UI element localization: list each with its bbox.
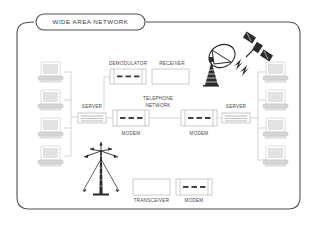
workstation-right-3[interactable] xyxy=(263,118,288,138)
server-left-label: SERVER xyxy=(82,104,103,109)
demodulator[interactable] xyxy=(110,69,146,84)
receiver[interactable] xyxy=(152,69,189,84)
modem-bottom[interactable] xyxy=(176,179,212,195)
satellite-signal-arrows xyxy=(234,59,249,76)
modem-right-label: MODEM xyxy=(190,131,209,136)
wan-diagram-canvas: WIDE AREA NETWORK xyxy=(0,0,317,225)
satellite-icon xyxy=(243,32,273,62)
workstation-left-3[interactable] xyxy=(38,118,63,138)
modem-left[interactable] xyxy=(113,110,149,126)
server-right[interactable] xyxy=(222,113,250,123)
workstation-right-4[interactable] xyxy=(263,146,288,166)
workstation-left-1[interactable] xyxy=(38,62,63,82)
server-left[interactable] xyxy=(78,113,106,123)
workstation-right-2[interactable] xyxy=(263,90,288,110)
page-title: WIDE AREA NETWORK xyxy=(53,18,129,25)
transceiver-label: TRANSCEIVER xyxy=(134,198,170,203)
modem-bottom-label: MODEM xyxy=(185,198,204,203)
server-right-label: SERVER xyxy=(226,104,247,109)
left-bus-wires xyxy=(64,72,80,156)
telephone-network-label-line2: NETWORK xyxy=(145,103,171,108)
receiver-label: RECEIVER xyxy=(159,61,185,66)
workstation-left-2[interactable] xyxy=(38,90,63,110)
radio-tower-icon xyxy=(83,142,119,196)
transceiver[interactable] xyxy=(133,179,170,195)
modem-left-label: MODEM xyxy=(122,131,141,136)
satellite-dish-icon xyxy=(203,40,239,87)
workstation-left-4[interactable] xyxy=(38,146,63,166)
diagram-title-badge: WIDE AREA NETWORK xyxy=(36,14,145,30)
demodulator-label: DEMODULATOR xyxy=(109,61,147,66)
wire-demodulator-to-network xyxy=(104,77,110,110)
workstation-right-1[interactable] xyxy=(263,62,288,82)
modem-right[interactable] xyxy=(181,110,217,126)
telephone-network-label-line1: TELEPHONE xyxy=(143,96,173,101)
right-bus-wires xyxy=(250,72,266,160)
